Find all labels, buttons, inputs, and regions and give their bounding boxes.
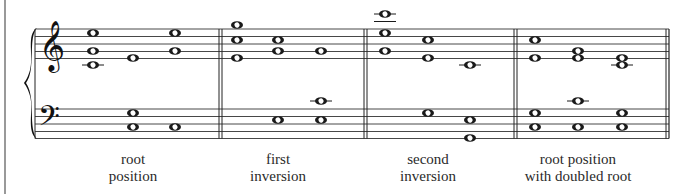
- whole-note-icon: [87, 47, 99, 55]
- whole-note-icon: [231, 21, 243, 29]
- whole-note-icon: [127, 109, 139, 117]
- treble-clef-icon: 𝄞: [39, 19, 65, 73]
- whole-note-icon: [127, 54, 139, 62]
- notes: [82, 10, 633, 142]
- whole-note-icon: [616, 61, 628, 69]
- whole-note-icon: [529, 36, 541, 44]
- whole-note-icon: [272, 36, 284, 44]
- measure-label: root positionwith doubled root: [498, 151, 658, 185]
- whole-note-icon: [422, 109, 434, 117]
- whole-note-icon: [127, 123, 139, 131]
- whole-note-icon: [315, 116, 327, 124]
- whole-note-icon: [422, 36, 434, 44]
- whole-note-icon: [529, 109, 541, 117]
- whole-note-icon: [379, 10, 391, 18]
- whole-note-icon: [616, 123, 628, 131]
- whole-note-icon: [379, 29, 391, 37]
- whole-note-icon: [616, 109, 628, 117]
- whole-note-icon: [231, 54, 243, 62]
- whole-note-icon: [529, 123, 541, 131]
- whole-note-icon: [272, 116, 284, 124]
- label-line-1: root position: [498, 151, 658, 168]
- whole-note-icon: [315, 47, 327, 55]
- whole-note-icon: [572, 123, 584, 131]
- whole-note-icon: [529, 54, 541, 62]
- whole-note-icon: [169, 123, 181, 131]
- label-line-2: inversion: [198, 168, 358, 185]
- label-line-2: position: [53, 168, 213, 185]
- measure-label: rootposition: [53, 151, 213, 185]
- whole-note-icon: [422, 54, 434, 62]
- whole-note-icon: [87, 61, 99, 69]
- whole-note-icon: [464, 116, 476, 124]
- whole-note-icon: [572, 97, 584, 105]
- whole-note-icon: [169, 47, 181, 55]
- whole-note-icon: [169, 29, 181, 37]
- whole-note-icon: [231, 36, 243, 44]
- whole-note-icon: [315, 97, 327, 105]
- staff-lines: [35, 29, 669, 139]
- whole-note-icon: [572, 54, 584, 62]
- whole-note-icon: [464, 61, 476, 69]
- label-line-2: inversion: [348, 168, 508, 185]
- whole-note-icon: [572, 47, 584, 55]
- measure-label: secondinversion: [348, 151, 508, 185]
- whole-note-icon: [616, 54, 628, 62]
- measure-label: firstinversion: [198, 151, 358, 185]
- label-line-1: root: [53, 151, 213, 168]
- label-line-2: with doubled root: [498, 168, 658, 185]
- barlines: [219, 29, 669, 139]
- whole-note-icon: [379, 47, 391, 55]
- label-line-1: second: [348, 151, 508, 168]
- label-line-1: first: [198, 151, 358, 168]
- whole-note-icon: [87, 29, 99, 37]
- whole-note-icon: [464, 134, 476, 142]
- whole-note-icon: [272, 47, 284, 55]
- bass-clef-icon: 𝄢: [38, 99, 60, 139]
